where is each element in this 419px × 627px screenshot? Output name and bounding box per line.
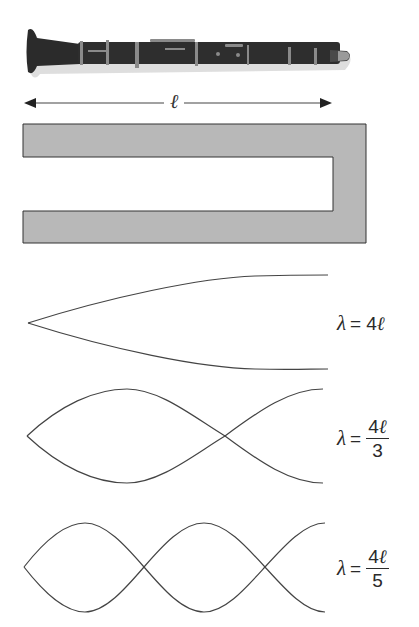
fraction: 4ℓ 3 <box>366 417 389 460</box>
standing-wave-mode-1 <box>28 275 328 369</box>
wavelength-label-mode-5: λ = 4ℓ 5 <box>337 547 389 590</box>
lambda-symbol: λ <box>337 311 346 336</box>
lambda-symbol: λ <box>337 426 346 451</box>
lambda-symbol: λ <box>337 556 346 581</box>
equals-sign: = <box>350 428 361 450</box>
equals-sign: = <box>350 558 361 580</box>
length-symbol: ℓ <box>377 313 385 335</box>
standing-wave-mode-5 <box>24 523 325 612</box>
numerator: 4 <box>366 313 377 335</box>
fraction-denominator: 3 <box>372 439 383 460</box>
fraction: 4ℓ 5 <box>366 547 389 590</box>
fraction-numerator: 4ℓ <box>366 547 389 569</box>
wavelength-label-mode-3: λ = 4ℓ 3 <box>337 417 389 460</box>
wavelength-label-mode-1: λ = 4ℓ <box>337 311 385 336</box>
fraction-numerator: 4ℓ <box>366 417 389 439</box>
equals-sign: = <box>350 313 361 335</box>
standing-wave-mode-3 <box>27 389 323 483</box>
length-symbol: ℓ <box>164 90 184 113</box>
clarinet-illustration <box>27 29 351 78</box>
fraction-denominator: 5 <box>372 569 383 590</box>
tube-cross-section <box>23 124 366 243</box>
